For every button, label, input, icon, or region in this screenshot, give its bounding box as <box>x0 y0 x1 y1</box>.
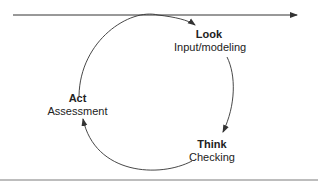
node-think: Think Checking <box>182 138 242 164</box>
node-act: Act Assessment <box>45 92 110 118</box>
arrow-look-to-think <box>223 57 233 132</box>
node-act-title: Act <box>45 92 110 105</box>
node-look: Look Input/modeling <box>174 28 244 54</box>
arrow-think-to-act <box>83 119 192 170</box>
arrow-act-to-look <box>79 14 195 96</box>
bottom-divider <box>0 179 318 181</box>
node-look-subtitle: Input/modeling <box>174 41 246 53</box>
node-look-title: Look <box>174 28 244 41</box>
node-act-subtitle: Assessment <box>48 105 108 117</box>
node-think-subtitle: Checking <box>189 151 235 163</box>
node-think-title: Think <box>182 138 242 151</box>
